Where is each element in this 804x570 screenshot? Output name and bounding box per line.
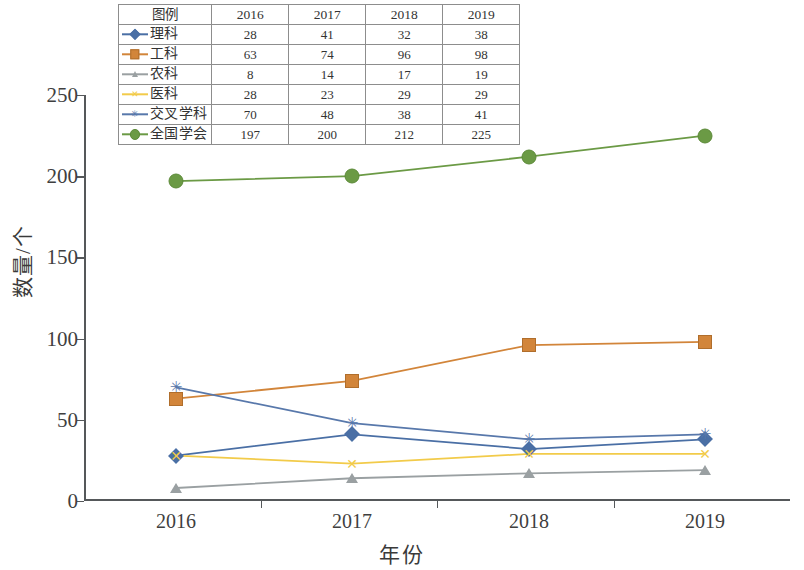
legend-series-label: 工科 [150, 46, 179, 63]
legend-header-year-2016: 2016 [212, 5, 289, 25]
circle-marker-icon [698, 128, 713, 143]
legend-value-cell: 96 [366, 45, 443, 65]
legend-series-label: 全国学会 [150, 126, 207, 143]
plot-area: 050100150200250 2016201720182019 ✕✕✕✕✳✳✳… [84, 95, 790, 501]
x-tick-label: 2017 [332, 510, 372, 533]
triangle-marker-icon [346, 473, 358, 483]
legend-series-cell: ✕医科 [119, 85, 212, 105]
cross-marker-icon: ✕ [699, 446, 711, 462]
legend-value-cell: 63 [212, 45, 289, 65]
legend-swatch: ✕ [122, 88, 148, 101]
legend-series-cell: 理科 [119, 25, 212, 45]
legend-series-label: 农科 [150, 66, 179, 83]
y-tick-mark [77, 501, 84, 502]
legend-line-icon [122, 134, 148, 135]
legend-line-icon [122, 114, 148, 115]
legend-value-cell: 8 [212, 65, 289, 85]
legend-value-cell: 200 [289, 125, 366, 145]
series-line [176, 470, 705, 488]
legend-value-cell: 29 [366, 85, 443, 105]
legend-value-cell: 23 [289, 85, 366, 105]
x-axis-title: 年份 [0, 538, 804, 568]
chart-figure: 图例 2016 2017 2018 2019 理科28413238工科63749… [0, 0, 804, 570]
legend-header-title: 图例 [119, 5, 212, 25]
y-tick-label: 0 [68, 489, 79, 514]
legend-series-label: 理科 [150, 26, 179, 43]
triangle-marker-icon [699, 465, 711, 475]
x-tick-label: 2018 [509, 510, 549, 533]
star-marker-icon: ✳ [523, 430, 536, 448]
circle-marker-icon [169, 174, 184, 189]
legend-swatch [122, 28, 148, 41]
legend-data-table: 图例 2016 2017 2018 2019 理科28413238工科63749… [118, 4, 520, 145]
legend-header-year-2018: 2018 [366, 5, 443, 25]
series-line [176, 454, 705, 464]
legend-swatch [122, 128, 148, 141]
legend-value-cell: 14 [289, 65, 366, 85]
legend-row: 农科8141719 [119, 65, 520, 85]
legend-value-cell: 212 [366, 125, 443, 145]
legend-value-cell: 17 [366, 65, 443, 85]
square-marker-icon [169, 392, 183, 406]
diamond-marker-icon [344, 427, 360, 443]
y-tick-label: 150 [47, 245, 79, 270]
y-axis-line [84, 95, 86, 501]
cross-marker-icon: ✕ [346, 456, 358, 472]
legend-series-cell: ✳交叉学科 [119, 105, 212, 125]
legend-series-cell: 全国学会 [119, 125, 212, 145]
legend-value-cell: 28 [212, 25, 289, 45]
series-lines [84, 95, 790, 501]
circle-marker-icon [345, 169, 360, 184]
legend-line-icon [122, 34, 148, 35]
star-marker-icon: ✳ [699, 425, 712, 443]
y-tick-mark [77, 257, 84, 258]
legend-value-cell: 74 [289, 45, 366, 65]
legend-value-cell: 28 [212, 85, 289, 105]
y-tick-mark [77, 176, 84, 177]
legend-value-cell: 19 [443, 65, 520, 85]
legend-row: 全国学会197200212225 [119, 125, 520, 145]
legend-swatch [122, 68, 148, 81]
legend-row: ✳交叉学科70483841 [119, 105, 520, 125]
legend-line-icon [122, 94, 148, 95]
triangle-marker-icon [523, 468, 535, 478]
y-tick-mark [77, 339, 84, 340]
y-axis-title: 数量/个 [6, 225, 36, 298]
legend-value-cell: 41 [289, 25, 366, 45]
x-tick-mark [437, 501, 438, 508]
legend-swatch [122, 48, 148, 61]
legend-header-year-2017: 2017 [289, 5, 366, 25]
legend-row: 理科28413238 [119, 25, 520, 45]
legend-value-cell: 41 [443, 105, 520, 125]
legend-row: 工科63749698 [119, 45, 520, 65]
legend-series-cell: 工科 [119, 45, 212, 65]
x-tick-mark [261, 501, 262, 508]
legend-header-row: 图例 2016 2017 2018 2019 [119, 5, 520, 25]
y-tick-mark [77, 420, 84, 421]
legend-value-cell: 70 [212, 105, 289, 125]
x-tick-label: 2016 [156, 510, 196, 533]
diamond-marker-icon [521, 441, 537, 457]
y-tick-mark [77, 95, 84, 96]
cross-marker-icon: ✕ [170, 448, 182, 464]
legend-value-cell: 29 [443, 85, 520, 105]
square-marker-icon [698, 335, 712, 349]
legend-body: 理科28413238工科63749698农科8141719✕医科28232929… [119, 25, 520, 145]
legend-line-icon [122, 54, 148, 55]
series-line [176, 342, 705, 399]
series-line [176, 387, 705, 439]
legend-line-icon [122, 74, 148, 75]
legend-series-label: 交叉学科 [150, 106, 207, 123]
legend-value-cell: 38 [443, 25, 520, 45]
legend-value-cell: 98 [443, 45, 520, 65]
y-tick-label: 250 [47, 83, 79, 108]
square-marker-icon [522, 338, 536, 352]
x-tick-label: 2019 [685, 510, 725, 533]
y-tick-label: 200 [47, 164, 79, 189]
y-tick-label: 50 [57, 407, 78, 432]
cross-marker-icon: ✕ [523, 446, 535, 462]
star-marker-icon: ✳ [346, 414, 359, 432]
legend-swatch: ✳ [122, 108, 148, 121]
square-marker-icon [345, 374, 359, 388]
triangle-marker-icon [170, 483, 182, 493]
